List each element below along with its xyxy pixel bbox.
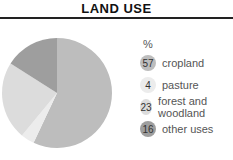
legend-badge: 16 xyxy=(140,121,156,137)
chart-title: LAND USE xyxy=(0,1,233,16)
legend-item-other: 16 other uses xyxy=(140,118,233,140)
legend-label: cropland xyxy=(162,57,204,69)
legend: % 57 cropland 4 pasture 23 forest and wo… xyxy=(140,38,233,140)
legend-label: pasture xyxy=(162,79,199,91)
legend-item-forest: 23 forest and woodland xyxy=(140,96,233,118)
legend-item-cropland: 57 cropland xyxy=(140,52,233,74)
legend-label: other uses xyxy=(162,123,213,135)
legend-label: forest and woodland xyxy=(158,95,233,119)
legend-badge: 4 xyxy=(140,77,156,93)
legend-badge: 57 xyxy=(140,55,156,71)
legend-badge: 23 xyxy=(140,99,152,115)
pie-chart xyxy=(0,36,115,151)
legend-unit: % xyxy=(143,38,233,52)
title-rule xyxy=(0,17,233,19)
legend-item-pasture: 4 pasture xyxy=(140,74,233,96)
